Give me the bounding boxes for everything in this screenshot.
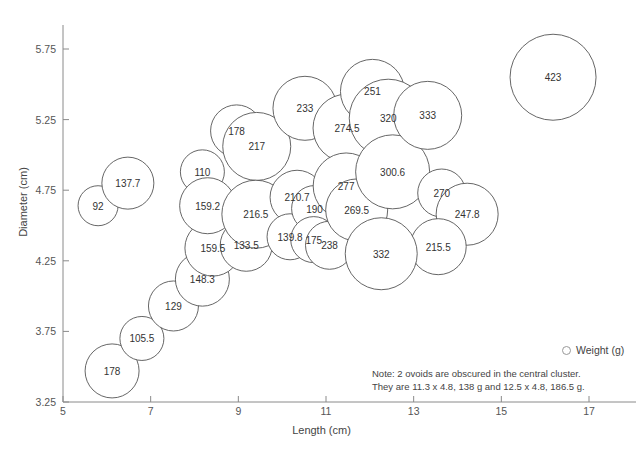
y-tick-label: 5.25: [22, 114, 56, 126]
x-tick-label: 7: [148, 405, 154, 417]
bubble: [410, 219, 466, 275]
bubble-group: [78, 34, 596, 398]
x-axis-title: Length (cm): [0, 424, 643, 436]
bubble: [345, 218, 417, 290]
y-tick-label: 4.25: [22, 255, 56, 267]
legend: Weight (g): [562, 344, 624, 356]
chart-note: Note: 2 ovoids are obscured in the centr…: [372, 367, 585, 393]
legend-circle-icon: [562, 346, 571, 355]
y-tick-label: 3.75: [22, 325, 56, 337]
y-axis-title: Diameter (cm): [17, 157, 29, 247]
y-tick-label: 5.75: [22, 43, 56, 55]
x-tick-label: 13: [408, 405, 420, 417]
chart-note-line-2: They are 11.3 x 4.8, 138 g and 12.5 x 4.…: [372, 380, 585, 393]
bubble: [394, 81, 462, 149]
bubble-chart: 92137.7178105.5129148.3159.5133.5110159.…: [0, 0, 643, 453]
chart-note-line-1: Note: 2 ovoids are obscured in the centr…: [372, 367, 585, 380]
x-tick-label: 11: [321, 405, 332, 417]
legend-label: Weight (g): [576, 344, 624, 356]
x-tick-label: 17: [583, 405, 595, 417]
bubble: [510, 34, 596, 120]
x-tick-label: 5: [60, 405, 66, 417]
x-tick-label: 15: [495, 405, 507, 417]
bubble: [102, 157, 154, 209]
y-tick-label: 3.25: [22, 396, 56, 408]
x-tick-label: 9: [235, 405, 241, 417]
